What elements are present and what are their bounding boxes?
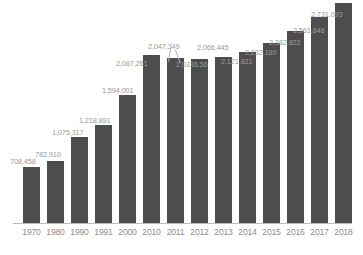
bar-2018[interactable] xyxy=(335,3,352,224)
value-label-2016: 2,382,822 xyxy=(269,38,301,47)
x-label-2018: 2018 xyxy=(323,226,363,238)
value-label-2010: 2,087,261 xyxy=(116,59,148,68)
value-label-1980: 782,910 xyxy=(35,150,61,159)
plot-area: 708,458 782,910 1,075,317 1,218,891 1,59… xyxy=(0,0,363,224)
x-axis-labels: 1970 1980 1990 1991 2000 2010 2011 2012 … xyxy=(0,226,363,242)
bar-2014[interactable] xyxy=(239,52,256,224)
bar-2012[interactable] xyxy=(191,59,208,224)
value-label-1970: 708,458 xyxy=(10,157,36,166)
bar-1990[interactable] xyxy=(71,137,88,224)
bar-1980[interactable] xyxy=(47,161,64,224)
value-label-2018: 2,731,093 xyxy=(311,10,343,19)
bar-1970[interactable] xyxy=(23,167,40,224)
bar-1991[interactable] xyxy=(95,125,112,224)
bar-2015[interactable] xyxy=(263,43,280,224)
value-label-2014: 2,121,831 xyxy=(221,57,253,66)
value-label-2000: 1,594,001 xyxy=(102,86,134,95)
bar-2017[interactable] xyxy=(311,17,328,224)
bar-2011[interactable] xyxy=(167,58,184,224)
bar-chart: 708,458 782,910 1,075,317 1,218,891 1,59… xyxy=(0,0,363,255)
value-label-2011: 2,047,349 xyxy=(148,42,180,51)
bar-2000[interactable] xyxy=(119,95,136,224)
value-label-2013: 2,066,445 xyxy=(197,43,229,52)
x-axis-line xyxy=(13,223,352,224)
value-label-2015: 2,232,189 xyxy=(245,48,277,57)
value-label-2012: 2,0336.56 xyxy=(176,60,208,69)
value-label-1991: 1,218,891 xyxy=(79,116,111,125)
bar-2013[interactable] xyxy=(215,57,232,224)
bar-2010[interactable] xyxy=(143,55,160,224)
value-label-2017: 2,561,848 xyxy=(293,26,325,35)
bar-2016[interactable] xyxy=(287,31,304,224)
value-label-1990: 1,075,317 xyxy=(52,128,84,137)
